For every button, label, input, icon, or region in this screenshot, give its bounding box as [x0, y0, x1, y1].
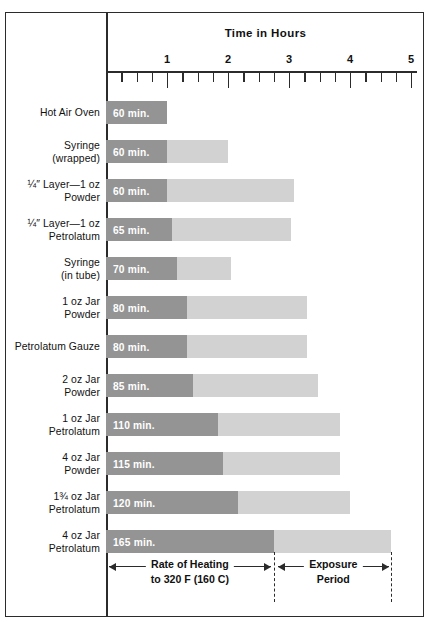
- chart-frame: Time in Hours 12345 Hot Air Oven60 min.S…: [5, 12, 424, 617]
- bar-row-label-line2: (wrapped): [52, 152, 100, 165]
- bar-segment-heating[interactable]: 165 min.: [106, 530, 274, 553]
- bar-segment-heating[interactable]: 80 min.: [106, 335, 187, 358]
- bar-segment-heating[interactable]: 65 min.: [106, 218, 172, 241]
- bar-value-label: 120 min.: [113, 497, 155, 508]
- stacked-bar[interactable]: 60 min.: [106, 101, 167, 124]
- bar-row-label-line2: Powder: [64, 191, 100, 204]
- x-axis-tick-label: 5: [408, 53, 414, 65]
- x-axis-minor-tick: [381, 73, 382, 82]
- stacked-bar[interactable]: 80 min.: [106, 296, 307, 319]
- bar-row: Syringe(wrapped)60 min.: [6, 132, 423, 171]
- arrow-left-icon: [278, 563, 285, 571]
- bar-row-label-line2: Petrolatum: [49, 230, 100, 243]
- bar-rows: Hot Air Oven60 min.Syringe(wrapped)60 mi…: [6, 93, 423, 561]
- bar-segment-exposure[interactable]: [187, 335, 307, 358]
- x-axis-major-tick: [167, 71, 168, 88]
- bar-track: 120 min.: [106, 483, 425, 522]
- bar-segment-heating[interactable]: 110 min.: [106, 413, 218, 436]
- bar-segment-heating[interactable]: 60 min.: [106, 179, 167, 202]
- bar-segment-exposure[interactable]: [193, 374, 319, 397]
- legend-exposure-label-line1: Exposure: [309, 558, 357, 570]
- bar-segment-heating[interactable]: 120 min.: [106, 491, 238, 514]
- bar-row-label: 4 oz JarPetrolatum: [6, 522, 100, 561]
- bar-segment-heating[interactable]: 80 min.: [106, 296, 187, 319]
- x-axis: 12345: [106, 71, 425, 93]
- bar-row-label-line1: ¼″ Layer—1 oz: [27, 178, 100, 191]
- bar-value-label: 165 min.: [113, 536, 155, 547]
- x-axis-major-tick: [411, 71, 412, 88]
- bar-segment-exposure[interactable]: [274, 530, 391, 553]
- stacked-bar[interactable]: 80 min.: [106, 335, 307, 358]
- bar-segment-exposure[interactable]: [223, 452, 340, 475]
- stacked-bar[interactable]: 165 min.: [106, 530, 391, 553]
- bar-track: 110 min.: [106, 405, 425, 444]
- bar-segment-heating[interactable]: 70 min.: [106, 257, 177, 280]
- stacked-bar[interactable]: 115 min.: [106, 452, 340, 475]
- stacked-bar[interactable]: 120 min.: [106, 491, 350, 514]
- bar-row-label: Syringe(wrapped): [6, 132, 100, 171]
- stacked-bar[interactable]: 70 min.: [106, 257, 231, 280]
- stacked-bar[interactable]: 85 min.: [106, 374, 318, 397]
- bar-value-label: 110 min.: [113, 419, 155, 430]
- bar-track: 80 min.: [106, 327, 425, 366]
- bar-segment-exposure[interactable]: [167, 140, 228, 163]
- x-axis-tick-label: 2: [225, 53, 231, 65]
- x-axis-minor-tick: [137, 73, 138, 82]
- bar-track: 65 min.: [106, 210, 425, 249]
- bar-row: 1 oz JarPowder80 min.: [6, 288, 423, 327]
- bar-row-label: Hot Air Oven: [6, 93, 100, 132]
- bar-row-label-line1: Syringe: [64, 139, 100, 152]
- legend-exposure-caption: Exposure Period: [304, 557, 362, 587]
- x-axis-major-tick: [289, 71, 290, 88]
- bar-segment-heating[interactable]: 60 min.: [106, 101, 167, 124]
- bar-value-label: 115 min.: [113, 458, 155, 469]
- bar-row-label: 1¾ oz JarPetrolatum: [6, 483, 100, 522]
- x-axis-minor-tick: [259, 73, 260, 82]
- bar-row: 1¾ oz JarPetrolatum120 min.: [6, 483, 423, 522]
- bar-row: Syringe(in tube)70 min.: [6, 249, 423, 288]
- bar-row-label-line1: Petrolatum Gauze: [15, 340, 100, 353]
- bar-segment-exposure[interactable]: [172, 218, 291, 241]
- legend-heating-caption: Rate of Heating to 320 F (160 C): [146, 557, 234, 587]
- x-axis-major-tick: [350, 71, 351, 88]
- bar-track: 70 min.: [106, 249, 425, 288]
- bar-row: Hot Air Oven60 min.: [6, 93, 423, 132]
- bar-row-label-line2: Petrolatum: [49, 503, 100, 516]
- bar-segment-heating[interactable]: 60 min.: [106, 140, 167, 163]
- bar-row: Petrolatum Gauze80 min.: [6, 327, 423, 366]
- bar-row-label-line1: 1 oz Jar: [62, 412, 100, 425]
- legend-span-heating: Rate of Heating to 320 F (160 C): [109, 566, 271, 568]
- bar-segment-heating[interactable]: 115 min.: [106, 452, 223, 475]
- bar-track: 85 min.: [106, 366, 425, 405]
- bar-row-label-line1: ¼″ Layer—1 oz: [27, 217, 100, 230]
- bar-segment-exposure[interactable]: [238, 491, 350, 514]
- bar-segment-heating[interactable]: 85 min.: [106, 374, 193, 397]
- stacked-bar[interactable]: 110 min.: [106, 413, 340, 436]
- bar-track: 60 min.: [106, 93, 425, 132]
- bar-segment-exposure[interactable]: [187, 296, 307, 319]
- x-axis-minor-tick: [243, 73, 244, 82]
- bar-segment-exposure[interactable]: [167, 179, 294, 202]
- stacked-bar[interactable]: 60 min.: [106, 140, 228, 163]
- x-axis-minor-tick: [320, 73, 321, 82]
- bar-row-label-line1: Hot Air Oven: [40, 106, 100, 119]
- x-axis-minor-tick: [182, 73, 183, 82]
- bar-segment-exposure[interactable]: [177, 257, 231, 280]
- x-axis-tick-label: 1: [164, 53, 170, 65]
- bar-row-label-line2: Powder: [64, 308, 100, 321]
- bar-row-label-line2: Powder: [64, 464, 100, 477]
- x-axis-minor-tick: [274, 73, 275, 82]
- x-axis-minor-tick: [121, 73, 122, 82]
- x-axis-minor-tick: [365, 73, 366, 82]
- chart-title: Time in Hours: [106, 27, 425, 39]
- bar-value-label: 60 min.: [113, 146, 150, 157]
- legend-divider-dash-middle: [274, 552, 275, 602]
- bar-row-label-line2: Petrolatum: [49, 542, 100, 555]
- bar-row-label-line1: 4 oz Jar: [62, 451, 100, 464]
- bar-row-label-line2: Petrolatum: [49, 425, 100, 438]
- bar-track: 115 min.: [106, 444, 425, 483]
- arrow-right-icon: [382, 563, 389, 571]
- stacked-bar[interactable]: 60 min.: [106, 179, 294, 202]
- stacked-bar[interactable]: 65 min.: [106, 218, 291, 241]
- bar-segment-exposure[interactable]: [218, 413, 340, 436]
